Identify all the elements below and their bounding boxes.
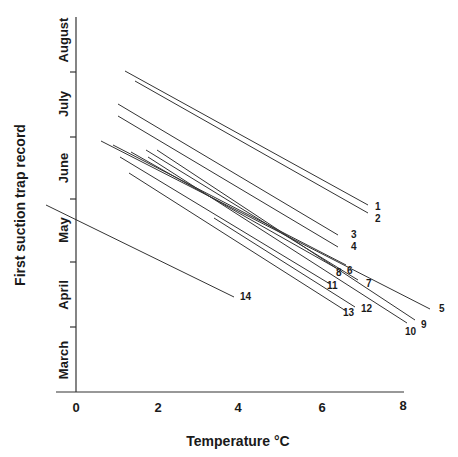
series-label-12: 12 [361,303,373,314]
x-tick-8: 8 [399,398,406,413]
month-label-june: June [56,153,71,183]
series-label-6: 6 [347,265,353,276]
series-label-13: 13 [343,307,355,318]
series-line-14 [46,205,234,297]
series-label-14: 14 [240,291,252,302]
month-label-july: July [56,90,71,117]
series-line-1 [125,71,368,205]
series-label-3: 3 [351,229,357,240]
series-label-11: 11 [327,280,338,291]
month-label-may: May [56,217,71,243]
month-label-march: March [56,341,71,379]
series-line-11 [120,157,330,284]
x-axis-title: Temperature °C [186,433,289,449]
x-tick-labels: 0 2 4 6 8 [72,398,406,415]
series-label-1: 1 [375,201,381,212]
series-label-5: 5 [439,303,445,314]
series-label-10: 10 [405,326,417,337]
month-label-august: August [56,17,71,62]
series-label-9: 9 [421,319,427,330]
series-line-6 [113,145,346,265]
x-tick-6: 6 [318,400,325,415]
series-line-9 [157,150,415,320]
month-label-april: April [56,280,71,310]
x-tick-2: 2 [154,400,161,415]
series-label-4: 4 [351,241,357,252]
series-line-12 [214,218,355,307]
series-lines [46,71,430,323]
series-line-10 [148,157,407,323]
series-line-8 [131,152,336,268]
x-tick-0: 0 [72,400,79,415]
y-axis-title: First suction trap record [12,124,28,286]
x-tick-4: 4 [234,400,242,415]
series-labels: 1 2 3 4 5 6 7 8 9 10 11 12 13 14 [240,201,445,337]
series-label-2: 2 [375,213,381,224]
series-line-7 [146,150,358,280]
series-label-7: 7 [366,278,372,289]
series-line-5 [101,141,430,309]
series-line-13 [129,173,346,311]
series-label-8: 8 [336,267,342,278]
chart-canvas: March April May June July August First s… [0,0,458,457]
series-line-3 [118,104,338,235]
month-labels: March April May June July August [56,17,71,379]
